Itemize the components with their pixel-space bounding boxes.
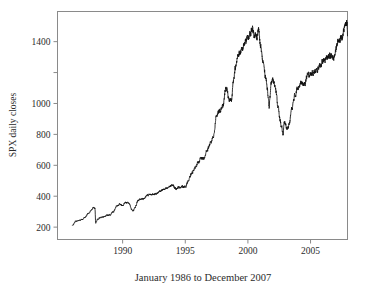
y-tick-label-1000: 1000 [32,99,51,109]
y-tick-label-400: 400 [36,192,51,202]
y-axis-title-group: SPX daily closes [8,93,18,158]
x-tick-label-1995: 1995 [176,246,195,256]
y-tick-label-800: 800 [36,130,51,140]
y-tick-label-600: 600 [36,161,51,171]
x-axis-caption: January 1986 to December 2007 [135,272,271,283]
x-tick-label-1990: 1990 [113,246,132,256]
x-tick-label-2005: 2005 [301,246,320,256]
y-tick-label-1400: 1400 [32,37,51,47]
y-tick-label-200: 200 [36,223,51,233]
figure-container: 20040060080010001400 1990199520002005 SP… [0,0,366,294]
x-tick-label-2000: 2000 [238,246,257,256]
caption-group: January 1986 to December 2007 [135,272,271,283]
y-axis-title: SPX daily closes [8,93,18,158]
spx-line-chart: 20040060080010001400 1990199520002005 SP… [0,0,366,294]
